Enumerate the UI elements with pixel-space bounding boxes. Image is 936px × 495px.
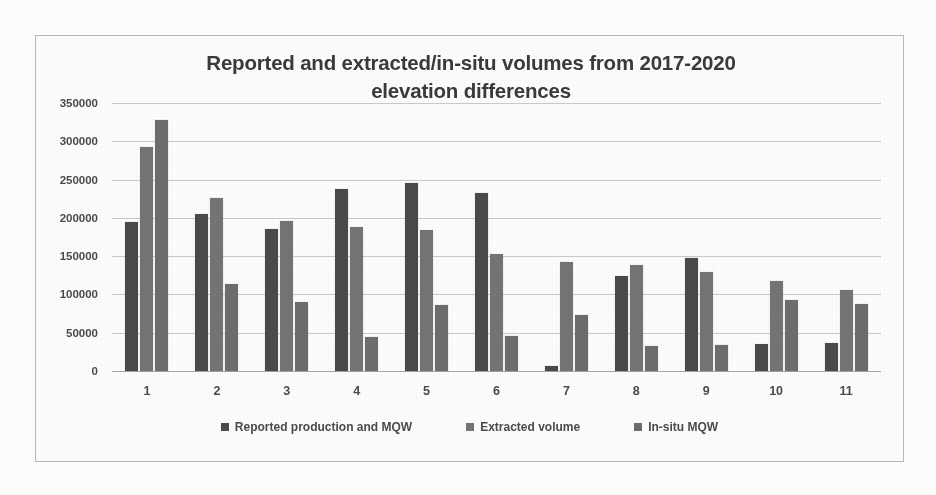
legend-swatch-icon [221, 423, 229, 431]
legend-item[interactable]: Reported production and MQW [221, 420, 412, 434]
bar[interactable] [840, 290, 853, 371]
legend-label: Reported production and MQW [235, 420, 412, 434]
plot-area: 3500003000002500002000001500001000005000… [112, 103, 881, 371]
bar[interactable] [615, 276, 628, 371]
legend-label: In-situ MQW [648, 420, 718, 434]
bar[interactable] [825, 343, 838, 371]
bar[interactable] [560, 262, 573, 371]
bar[interactable] [475, 193, 488, 371]
bar-group: 7 [531, 103, 601, 371]
x-axis-tick-label: 6 [462, 384, 532, 398]
bar[interactable] [155, 120, 168, 371]
chart-title-line-2: elevation differences [96, 77, 846, 105]
bar[interactable] [195, 214, 208, 371]
legend-item[interactable]: Extracted volume [466, 420, 580, 434]
chart-frame: Reported and extracted/in-situ volumes f… [35, 35, 904, 462]
legend-swatch-icon [466, 423, 474, 431]
bar-group: 10 [741, 103, 811, 371]
bar-group: 2 [182, 103, 252, 371]
y-axis-tick-label: 350000 [28, 97, 98, 109]
bar[interactable] [280, 221, 293, 371]
bar[interactable] [505, 336, 518, 371]
bar-group: 6 [462, 103, 532, 371]
bar[interactable] [685, 258, 698, 371]
y-axis-tick-label: 300000 [28, 135, 98, 147]
bar[interactable] [295, 302, 308, 371]
bar[interactable] [365, 337, 378, 371]
bar[interactable] [545, 366, 558, 371]
legend-item[interactable]: In-situ MQW [634, 420, 718, 434]
chart-title: Reported and extracted/in-situ volumes f… [96, 49, 846, 105]
x-axis-tick-label: 10 [741, 384, 811, 398]
x-axis-tick-label: 8 [601, 384, 671, 398]
bar[interactable] [265, 229, 278, 371]
bar[interactable] [630, 265, 643, 371]
x-axis-tick-label: 9 [671, 384, 741, 398]
legend-label: Extracted volume [480, 420, 580, 434]
bar-group: 8 [601, 103, 671, 371]
y-axis-tick-label: 250000 [28, 174, 98, 186]
x-axis-tick-label: 5 [392, 384, 462, 398]
y-axis-tick-label: 50000 [28, 327, 98, 339]
bar[interactable] [335, 189, 348, 371]
bar[interactable] [210, 198, 223, 371]
legend-swatch-icon [634, 423, 642, 431]
bar[interactable] [855, 304, 868, 371]
bar[interactable] [140, 147, 153, 371]
bar[interactable] [770, 281, 783, 371]
bar[interactable] [715, 345, 728, 371]
bar[interactable] [645, 346, 658, 371]
bar[interactable] [125, 222, 138, 371]
bar[interactable] [350, 227, 363, 371]
x-axis-tick-label: 7 [531, 384, 601, 398]
bar[interactable] [490, 254, 503, 371]
bar[interactable] [225, 284, 238, 371]
bar-group: 9 [671, 103, 741, 371]
x-axis-tick-label: 3 [252, 384, 322, 398]
x-axis-tick-label: 2 [182, 384, 252, 398]
chart-title-line-1: Reported and extracted/in-situ volumes f… [96, 49, 846, 77]
bar[interactable] [755, 344, 768, 371]
bar[interactable] [700, 272, 713, 371]
y-axis-tick-label: 0 [28, 365, 98, 377]
bar-group: 4 [322, 103, 392, 371]
bar[interactable] [405, 183, 418, 371]
bar-group: 3 [252, 103, 322, 371]
bar[interactable] [785, 300, 798, 371]
x-axis-tick-label: 11 [811, 384, 881, 398]
bar[interactable] [420, 230, 433, 371]
bar[interactable] [435, 305, 448, 371]
bar[interactable] [575, 315, 588, 371]
bar-group: 1 [112, 103, 182, 371]
y-axis-tick-label: 150000 [28, 250, 98, 262]
bar-group: 5 [392, 103, 462, 371]
y-axis-tick-label: 100000 [28, 288, 98, 300]
x-axis-tick-label: 4 [322, 384, 392, 398]
x-axis-tick-label: 1 [112, 384, 182, 398]
bar-group: 11 [811, 103, 881, 371]
bar-groups: 1234567891011 [112, 103, 881, 371]
y-axis-tick-label: 200000 [28, 212, 98, 224]
x-axis-line [112, 371, 881, 372]
chart-legend: Reported production and MQWExtracted vol… [36, 420, 903, 434]
